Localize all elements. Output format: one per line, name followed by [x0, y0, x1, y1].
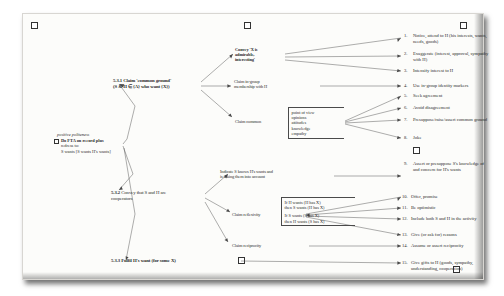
screenshot-root: positive politeness Do FTA on record plu…: [0, 0, 504, 296]
strategy-number-11: 11.: [402, 205, 411, 211]
strategy-number-4: 4.: [404, 83, 413, 89]
mid-node-claim-reciprocity: Claim reciprocity: [232, 243, 288, 248]
strategy-number-2: 2.: [404, 51, 413, 57]
strategy-item-5: 5. Seek agreement: [404, 93, 489, 99]
branch-sublabel-5-3-2: cooperators: [111, 196, 207, 202]
claim-common-label: Claim common: [235, 119, 285, 124]
strategy-text-13: Give (or ask for) reasons: [411, 232, 487, 238]
strategy-number-6: 6.: [404, 105, 413, 111]
strategy-number-13: 13.: [402, 232, 411, 238]
strategy-item-11: 11. Be optimistic: [402, 205, 487, 211]
strategy-number-14: 14.: [402, 243, 411, 249]
strategy-item-8: 8. Joke: [404, 135, 489, 141]
branch-node-5-3-3: 5.3.3 Fulfil H's want (for some X): [111, 258, 231, 264]
strategy-text-10: Offer, promise: [411, 194, 487, 200]
strategy-text-6: Avoid disagreement: [413, 105, 489, 111]
branch-number-5-3-2: 5.3.2: [111, 190, 120, 195]
root-line-3: S wants [S wants H's wants]: [61, 149, 111, 155]
reflexivity-b-line-2: then H wants (S has X): [285, 219, 353, 224]
strategy-number-9: 9.: [404, 161, 413, 167]
checkbox-icon: [54, 139, 59, 144]
strategy-text-9: Assert or presuppose S's knowledge of an…: [413, 161, 489, 172]
strategy-item-15: 15. Give gifts to H (goods, sympathy, un…: [402, 260, 487, 271]
strategy-item-6: 6. Avoid disagreement: [404, 105, 489, 111]
branch-label-5-3-2: Convey that S and H are: [121, 190, 166, 195]
indicate-line-2: is taking them into account: [220, 174, 336, 179]
strategy-text-8: Joke: [413, 135, 489, 141]
claim-reflexivity-label: Claim reflexivity: [232, 212, 288, 217]
strategy-number-7: 7.: [404, 117, 413, 123]
convey-x-line-3: interesting': [235, 57, 283, 62]
mid-node-claim-reflexivity: Claim reflexivity: [232, 212, 288, 217]
strategy-item-4: 4. Use in-group identity markers: [404, 83, 489, 89]
strategy-number-8: 8.: [404, 135, 413, 141]
strategy-item-1: 1. Notice, attend to H (his interests, w…: [404, 33, 489, 44]
strategy-item-12: 12. Include both S and H in the activity: [402, 216, 487, 222]
strategy-item-13: 13. Give (or ask for) reasons: [402, 232, 487, 238]
strategy-text-5: Seek agreement: [413, 93, 489, 99]
scanned-page: positive politeness Do FTA on record plu…: [22, 13, 484, 280]
branch-number-5-3-1: 5.3.1: [113, 78, 122, 83]
branch-node-5-3-2: 5.3.2 Convey that S and H are cooperator…: [111, 190, 207, 201]
mid-node-convey-x-admirable: Convey 'X is admirable, interesting': [235, 47, 283, 63]
bracket-claim-common: point of view opinions attitudes knowled…: [288, 107, 344, 139]
strategy-item-2: 2. Exaggerate (interest, approval, sympa…: [404, 51, 489, 62]
strategy-text-4: Use in-group identity markers: [413, 83, 489, 89]
strategy-item-14: 14. Assume or assert reciprocity: [402, 243, 487, 249]
strategy-text-15: Give gifts to H (goods, sympathy, unders…: [411, 260, 487, 271]
strategy-text-7: Presuppose/raise/assert common ground: [413, 117, 489, 123]
strategy-text-3: Intensify interest to H: [413, 68, 489, 74]
strategy-item-3: 3. Intensify interest to H: [404, 68, 489, 74]
strategy-number-12: 12.: [402, 216, 411, 222]
branch-label-5-3-1: Claim 'common ground': [123, 78, 171, 83]
branch-number-5-3-3: 5.3.3: [111, 258, 120, 263]
strategy-item-9: 9. Assert or presuppose S's knowledge of…: [404, 161, 489, 172]
strategy-number-15: 15.: [402, 260, 411, 266]
branch-label-5-3-3: Fulfil H's want (for some X): [121, 258, 176, 263]
ingroup-line-2: membership with H: [234, 84, 324, 89]
strategy-text-1: Notice, attend to H (his interests, want…: [413, 33, 489, 44]
strategy-number-3: 3.: [404, 68, 413, 74]
strategy-text-12: Include both S and H in the activity: [411, 216, 487, 222]
strategy-number-1: 1.: [404, 33, 413, 39]
root-strategy-label: positive politeness Do FTA on record plu…: [54, 132, 138, 155]
claim-reciprocity-label: Claim reciprocity: [232, 243, 288, 248]
bracket-claim-reflexivity: If H wants (H has X) then S wants (H has…: [281, 197, 355, 226]
mid-node-claim-common: Claim common: [235, 119, 285, 124]
branch-sublabel-5-3-1: (S & H ∈ {A} who want {X}): [113, 84, 205, 90]
strategy-text-2: Exaggerate (interest, approval, sympathy…: [413, 51, 489, 62]
strategy-text-11: Be optimistic: [411, 205, 487, 211]
strategy-number-5: 5.: [404, 93, 413, 99]
strategy-item-7: 7. Presuppose/raise/assert common ground: [404, 117, 489, 123]
mid-node-indicate-s-knows-h-wants: Indicate S knows H's wants and is taking…: [220, 169, 336, 179]
strategy-item-10: 10. Offer, promise: [402, 194, 487, 200]
strategy-text-14: Assume or assert reciprocity: [411, 243, 487, 249]
strategy-number-10: 10.: [402, 194, 411, 200]
branch-node-5-3-1: 5.3.1 Claim 'common ground' (S & H ∈ {A}…: [113, 78, 205, 89]
mid-node-claim-ingroup-membership: Claim in-group membership with H: [234, 79, 324, 89]
claim-common-item-4: empathy: [292, 131, 342, 136]
